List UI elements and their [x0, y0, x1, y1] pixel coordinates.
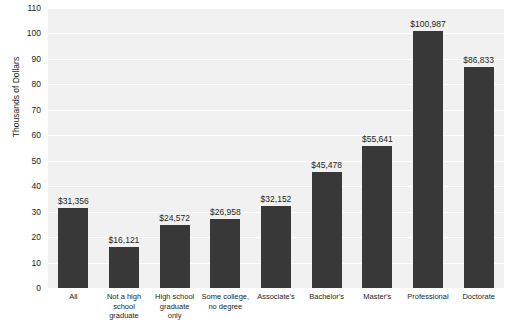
x-axis-category-label: Associate's	[251, 292, 302, 302]
y-axis-tick-label: 20	[32, 232, 41, 242]
bar-value-label: $100,987	[410, 19, 445, 29]
x-axis-labels: AllNot a highschoolgraduateHigh schoolgr…	[48, 292, 504, 324]
x-axis-category-label: Master's	[352, 292, 403, 302]
bar[interactable]	[160, 225, 190, 288]
x-axis-category-label: Doctorate	[453, 292, 504, 302]
bar[interactable]	[109, 247, 139, 288]
bar-slot: $45,478	[301, 8, 352, 288]
y-axis-tick-label: 80	[32, 79, 41, 89]
plot-area: $31,356$16,121$24,572$26,958$32,152$45,4…	[48, 8, 504, 288]
bar[interactable]	[464, 67, 494, 288]
bar[interactable]	[58, 208, 88, 288]
bar-value-label: $31,356	[58, 196, 89, 206]
bar-value-label: $45,478	[311, 160, 342, 170]
x-axis-category-label: Professional	[403, 292, 454, 302]
bar-value-label: $26,958	[210, 207, 241, 217]
bar-slot: $32,152	[251, 8, 302, 288]
x-axis-label-line: Professional	[403, 292, 454, 302]
y-axis-tick-label: 60	[32, 130, 41, 140]
x-axis-label-line: no degree	[200, 302, 251, 312]
bar-slot: $16,121	[99, 8, 150, 288]
bar-value-label: $16,121	[109, 235, 140, 245]
x-axis-category-label: Some college,no degree	[200, 292, 251, 311]
x-axis-category-label: Bachelor's	[301, 292, 352, 302]
bar-slot: $31,356	[48, 8, 99, 288]
bar-slot: $24,572	[149, 8, 200, 288]
x-axis-label-line: school	[99, 302, 150, 312]
y-axis-tick-label: 10	[32, 258, 41, 268]
x-axis-category-label: High schoolgraduateonly	[149, 292, 200, 321]
bar-chart: Thousands of Dollars 0102030405060708090…	[0, 0, 508, 324]
bar[interactable]	[210, 219, 240, 288]
y-axis-tick-label: 100	[27, 28, 41, 38]
y-axis-tick-label: 50	[32, 156, 41, 166]
x-axis-label-line: only	[149, 311, 200, 321]
x-axis-category-label: Not a highschoolgraduate	[99, 292, 150, 321]
bar-slot: $86,833	[453, 8, 504, 288]
x-axis-label-line: High school	[149, 292, 200, 302]
bar-slot: $55,641	[352, 8, 403, 288]
bar-value-label: $55,641	[362, 134, 393, 144]
bars-layer: $31,356$16,121$24,572$26,958$32,152$45,4…	[48, 8, 504, 288]
x-axis-label-line: Bachelor's	[301, 292, 352, 302]
bar[interactable]	[312, 172, 342, 288]
y-axis-tick-label: 110	[27, 3, 41, 13]
y-axis-tick-label: 40	[32, 181, 41, 191]
x-axis-label-line: Some college,	[200, 292, 251, 302]
bar-value-label: $32,152	[261, 194, 292, 204]
y-axis-tick-label: 30	[32, 207, 41, 217]
x-axis-label-line: graduate	[99, 311, 150, 321]
bar-value-label: $86,833	[463, 55, 494, 65]
y-axis-tick-label: 90	[32, 54, 41, 64]
bar-slot: $100,987	[403, 8, 454, 288]
bar-value-label: $24,572	[159, 213, 190, 223]
y-axis-ticks: 0102030405060708090100110	[0, 0, 44, 324]
y-axis-tick-label: 70	[32, 105, 41, 115]
x-axis-label-line: Associate's	[251, 292, 302, 302]
bar-slot: $26,958	[200, 8, 251, 288]
x-axis-label-line: Doctorate	[453, 292, 504, 302]
x-axis-label-line: graduate	[149, 302, 200, 312]
bar[interactable]	[362, 146, 392, 288]
x-axis-category-label: All	[48, 292, 99, 302]
bar[interactable]	[261, 206, 291, 288]
y-axis-tick-label: 0	[36, 283, 41, 293]
x-axis-label-line: All	[48, 292, 99, 302]
x-axis-label-line: Master's	[352, 292, 403, 302]
bar[interactable]	[413, 31, 443, 288]
x-axis-label-line: Not a high	[99, 292, 150, 302]
